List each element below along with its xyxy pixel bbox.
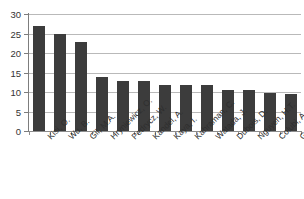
x-axis-label: Kahraman, C. (193, 135, 199, 141)
bar (33, 26, 45, 131)
x-axis-label: Gil, M.A. (88, 135, 94, 141)
y-tick-label: 0 (0, 127, 21, 137)
x-axis-label: Watada, J. (214, 135, 220, 141)
x-axis-label: Kandel, A. (151, 135, 157, 141)
x-axis-labels: Kisi, O.Wu, B.Gil, M.A.Hryniewicz, O.Ped… (29, 133, 304, 199)
y-tick-label: 10 (0, 88, 21, 98)
x-axis-label: Hryniewicz, O. (109, 135, 115, 141)
y-tick-label: 15 (0, 69, 21, 79)
x-axis-label: Kaya, I. (172, 135, 178, 141)
x-axis-label: Nguyen, H.T. (256, 135, 262, 141)
bar-chart: 30 25 20 15 10 5 0 Kisi, O.Wu, B.Gil, M.… (0, 0, 304, 199)
x-axis-label: Dubois, D. (235, 135, 241, 141)
y-tick-label: 30 (0, 10, 21, 20)
y-tick-label: 5 (0, 108, 21, 118)
x-axis-label: Pedrycz, W. (130, 135, 136, 141)
x-axis-label: Colubi, A. (277, 135, 283, 141)
y-tick-label: 25 (0, 30, 21, 40)
x-axis-label: Gader, P. (298, 135, 304, 141)
x-axis-label: Wu, B. (67, 135, 73, 141)
x-axis-label: Kisi, O. (46, 135, 52, 141)
y-tick-label: 20 (0, 49, 21, 59)
